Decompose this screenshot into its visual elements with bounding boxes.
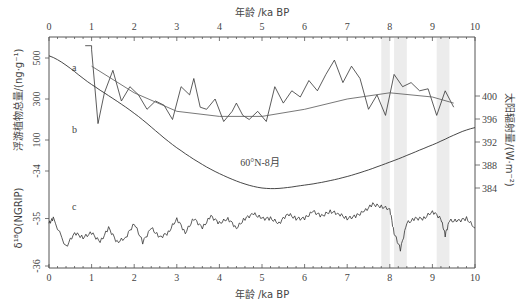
- shaded-band: [437, 38, 450, 267]
- panel-label-b: b: [72, 124, 77, 135]
- shaded-band: [381, 38, 390, 267]
- y-tick-label-left: -35: [31, 212, 42, 225]
- y-tick-label-left: 100: [31, 133, 42, 148]
- x-tick-label-top: 9: [430, 21, 435, 32]
- x-tick-label-top: 5: [260, 21, 265, 32]
- x-tick-label-bottom: 7: [345, 272, 350, 283]
- x-axis-title-top: 年龄 /ka BP: [235, 6, 289, 18]
- y-tick-label-right: 392: [482, 137, 497, 148]
- x-tick-label-top: 1: [89, 21, 94, 32]
- y-tick-label-right: 396: [482, 114, 497, 125]
- x-axis-title-bottom: 年龄 /ka BP: [235, 288, 289, 300]
- x-tick-label-bottom: 5: [260, 272, 265, 283]
- y-tick-label-left: 500: [31, 51, 42, 66]
- panel-label-c: c: [72, 201, 77, 212]
- shaded-band: [394, 38, 407, 267]
- x-tick-label-bottom: 4: [217, 272, 222, 283]
- x-tick-label-top: 4: [217, 21, 222, 32]
- right-axis-title: 太阳辐射量/(W·m⁻²): [504, 93, 516, 186]
- x-tick-label-top: 6: [302, 21, 307, 32]
- x-tick-label-top: 0: [47, 21, 52, 32]
- x-tick-label-bottom: 9: [430, 272, 435, 283]
- x-tick-label-top: 2: [132, 21, 137, 32]
- x-tick-label-bottom: 3: [174, 272, 179, 283]
- x-tick-label-bottom: 0: [47, 272, 52, 283]
- y-tick-label-left: -34: [31, 164, 42, 177]
- y-tick-label-left: -36: [31, 259, 42, 272]
- y-tick-label-right: 384: [482, 183, 497, 194]
- series-b-insolation: [49, 56, 475, 189]
- x-tick-label-bottom: 10: [470, 272, 480, 283]
- x-tick-label-bottom: 2: [132, 272, 137, 283]
- shaded-bands: [381, 38, 449, 267]
- insolation-annotation: 60°N-8月: [240, 157, 280, 168]
- x-tick-label-top: 10: [470, 21, 480, 32]
- x-tick-label-bottom: 6: [302, 272, 307, 283]
- y-tick-label-left: 300: [31, 92, 42, 107]
- y-tick-label-right: 388: [482, 160, 497, 171]
- y-tick-label-right: 400: [482, 91, 497, 102]
- left-upper-axis-title: 浮游植物总量/(ng·g⁻¹): [12, 49, 24, 152]
- x-tick-label-bottom: 8: [387, 272, 392, 283]
- x-tick-label-top: 3: [174, 21, 179, 32]
- x-tick-label-top: 8: [387, 21, 392, 32]
- left-lower-axis-title: δ¹⁸O(NGRIP): [13, 187, 24, 248]
- chart-canvas: 001122334455667788991010 500300100-34-35…: [0, 0, 520, 308]
- series-c-d18o-ngrip: [49, 203, 475, 252]
- x-tick-label-bottom: 1: [89, 272, 94, 283]
- x-tick-label-top: 7: [345, 21, 350, 32]
